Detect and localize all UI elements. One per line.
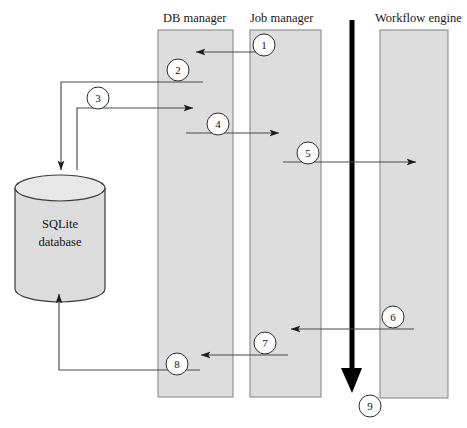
step-badge-5: 5: [297, 142, 319, 164]
lane-box-workflow-engine: [380, 30, 448, 398]
diagram-canvas: DB manager Job manager Workflow engine S…: [0, 0, 467, 428]
step-badge-8: 8: [166, 353, 188, 375]
step-number-1: 1: [261, 39, 267, 51]
step-number-8: 8: [174, 358, 180, 370]
lane-label-db-manager: DB manager: [163, 11, 227, 25]
step-badge-6: 6: [382, 306, 404, 328]
step-number-5: 5: [305, 147, 311, 159]
step-badge-1: 1: [253, 34, 275, 56]
datastore-label-line1: SQLite: [42, 217, 79, 231]
step-badge-2: 2: [167, 59, 189, 81]
lane-label-job-manager: Job manager: [250, 11, 314, 25]
step-badge-3: 3: [87, 87, 109, 109]
step-badge-9: 9: [359, 395, 381, 417]
workflow-diagram: DB manager Job manager Workflow engine S…: [0, 0, 467, 428]
datastore-label-line2: database: [38, 235, 81, 249]
sqlite-database-cylinder: SQLite database: [15, 175, 105, 302]
step-number-6: 6: [390, 311, 396, 323]
time-axis-arrow: [341, 20, 362, 393]
step-number-7: 7: [262, 337, 268, 349]
lane-box-db-manager: [158, 30, 233, 397]
step-number-2: 2: [175, 64, 181, 76]
step-badge-4: 4: [207, 113, 229, 135]
step-number-9: 9: [367, 400, 373, 412]
step-badge-7: 7: [254, 332, 276, 354]
step-number-3: 3: [95, 92, 101, 104]
lane-label-workflow-engine: Workflow engine: [375, 11, 462, 25]
step-number-4: 4: [215, 118, 221, 130]
